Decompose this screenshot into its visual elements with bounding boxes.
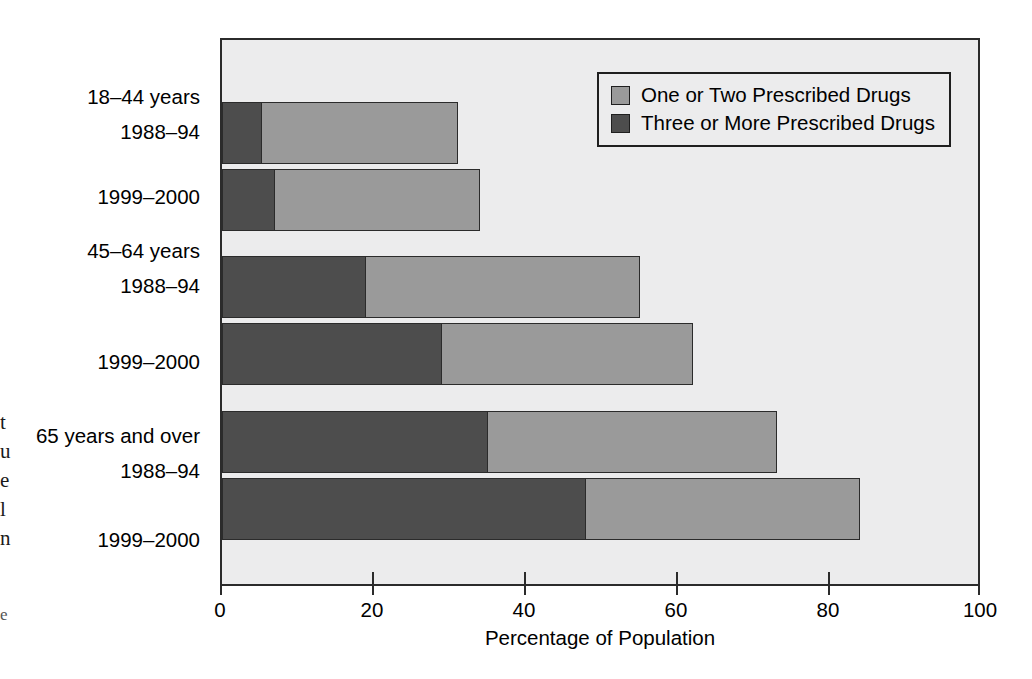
legend-swatch-one-or-two — [611, 86, 630, 105]
y-period-label-65-over-1988: 1988–94 — [120, 459, 200, 483]
y-period-label-45-64-1999: 1999–2000 — [97, 350, 200, 374]
bar-segment-one-or-two — [274, 169, 481, 231]
x-tick-label-60: 60 — [665, 598, 688, 622]
x-inner-tick-60 — [676, 572, 678, 584]
x-inner-tick-40 — [524, 572, 526, 584]
chart-plot-area: One or Two Prescribed Drugs Three or Mor… — [220, 38, 980, 586]
x-tick-label-80: 80 — [817, 598, 840, 622]
x-tick-label-20: 20 — [361, 598, 384, 622]
y-axis-labels: 18–44 years 1988–94 1999–2000 45–64 year… — [0, 0, 212, 679]
bar-segment-three-or-more — [222, 478, 587, 540]
bar-row-45-64-1988-94 — [222, 256, 640, 318]
bar-row-18-44-1988-94 — [222, 102, 458, 164]
y-period-label-18-44-1999: 1999–2000 — [97, 185, 200, 209]
x-tick-label-0: 0 — [214, 598, 225, 622]
y-group-label-18-44: 18–44 years — [87, 85, 200, 109]
bar-segment-one-or-two — [585, 478, 860, 540]
legend-item-three-or-more: Three or More Prescribed Drugs — [611, 109, 935, 137]
bar-segment-one-or-two — [365, 256, 640, 318]
y-period-label-18-44-1988: 1988–94 — [120, 120, 200, 144]
legend-label-one-or-two: One or Two Prescribed Drugs — [641, 84, 911, 106]
bar-row-18-44-1999-2000 — [222, 169, 480, 231]
chart-legend: One or Two Prescribed Drugs Three or Mor… — [597, 72, 951, 147]
legend-label-three-or-more: Three or More Prescribed Drugs — [641, 112, 935, 134]
x-tick-mark-0 — [220, 586, 222, 595]
x-tick-label-100: 100 — [963, 598, 997, 622]
x-tick-mark-100 — [978, 586, 980, 595]
legend-item-one-or-two: One or Two Prescribed Drugs — [611, 81, 935, 109]
bar-segment-three-or-more — [222, 411, 488, 473]
y-group-label-65-over: 65 years and over — [36, 424, 200, 448]
x-tick-label-40: 40 — [513, 598, 536, 622]
x-axis-title: Percentage of Population — [220, 626, 980, 650]
y-group-label-45-64: 45–64 years — [87, 239, 200, 263]
x-inner-tick-80 — [828, 572, 830, 584]
x-tick-mark-40 — [524, 586, 526, 595]
y-period-label-65-over-1999: 1999–2000 — [97, 528, 200, 552]
bar-row-45-64-1999-2000 — [222, 323, 693, 385]
x-axis-ticks: 0 20 40 60 80 100 — [220, 586, 980, 626]
bar-segment-three-or-more — [222, 102, 262, 164]
legend-swatch-three-or-more — [611, 114, 630, 133]
bar-segment-three-or-more — [222, 323, 442, 385]
y-period-label-45-64-1988: 1988–94 — [120, 274, 200, 298]
x-inner-tick-20 — [372, 572, 374, 584]
bar-segment-three-or-more — [222, 256, 366, 318]
bar-segment-one-or-two — [487, 411, 777, 473]
x-tick-mark-20 — [372, 586, 374, 595]
x-tick-mark-60 — [676, 586, 678, 595]
bar-row-65-over-1988-94 — [222, 411, 777, 473]
bar-row-65-over-1999-2000 — [222, 478, 860, 540]
bar-segment-one-or-two — [261, 102, 458, 164]
bar-segment-three-or-more — [222, 169, 275, 231]
bar-segment-one-or-two — [441, 323, 693, 385]
x-tick-mark-80 — [828, 586, 830, 595]
